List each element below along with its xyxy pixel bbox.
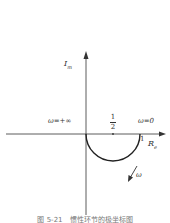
x-axis-label-sub: e <box>154 144 157 150</box>
imag-axis-arrow-icon <box>84 51 89 59</box>
fraction-numerator: 1 <box>111 113 115 121</box>
x-axis-label: Re <box>148 140 157 150</box>
y-axis-label-sub: m <box>67 64 72 70</box>
half-tick <box>112 133 114 135</box>
omega-infinity-label: ω=+∞ <box>48 118 71 125</box>
nyquist-semicircle <box>86 134 140 161</box>
half-fraction-label: 1 2 <box>109 114 117 131</box>
figure-caption: 图 5-21 惯性环节的极坐标图 <box>0 214 170 223</box>
omega-zero-label: ω=0 <box>138 118 154 125</box>
omega-direction-label: ω <box>136 172 142 179</box>
one-label: 1 <box>140 136 144 143</box>
real-axis-arrow-icon <box>159 132 166 137</box>
polar-plot-canvas <box>0 0 170 223</box>
y-axis-label: Im <box>64 60 72 70</box>
omega-direction-arrow-icon <box>128 175 133 182</box>
fraction-denominator: 2 <box>111 123 115 131</box>
